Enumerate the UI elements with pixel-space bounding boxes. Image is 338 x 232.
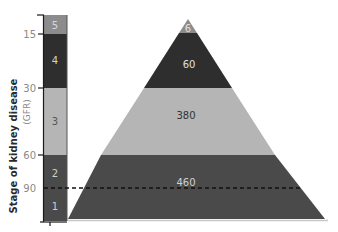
pyramid — [68, 19, 325, 219]
stage-4-label: 4 — [52, 55, 58, 66]
stage-3-label: 3 — [52, 116, 58, 127]
stage-5-label: 5 — [52, 20, 58, 31]
tick-15: 15 — [23, 29, 36, 40]
y-axis-sublabel: (GFR) — [22, 99, 32, 124]
ckd-pyramid-chart: Stage of kidney disease (GFR) 5 4 3 2 1 … — [0, 0, 338, 232]
tick-30: 30 — [23, 83, 36, 94]
y-axis-label: Stage of kidney disease — [8, 78, 19, 213]
tick-60: 60 — [23, 150, 36, 161]
stage-2-label: 2 — [52, 168, 58, 179]
tick-90: 90 — [23, 183, 36, 194]
pyramid-label-stage-2-1: 460 — [176, 177, 195, 188]
pyramid-stage-2-1 — [68, 155, 325, 219]
pyramid-label-stage-4: 60 — [183, 59, 196, 70]
pyramid-label-stage-5: 6 — [185, 23, 191, 34]
pyramid-stage-3 — [101, 88, 275, 155]
stage-1-label: 1 — [52, 201, 58, 212]
pyramid-label-stage-3: 380 — [176, 110, 195, 121]
